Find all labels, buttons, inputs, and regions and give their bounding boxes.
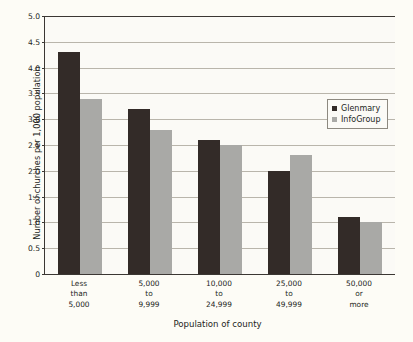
- chart-legend: GlenmaryInfoGroup: [327, 99, 388, 129]
- x-axis-tick-label-line: 49,999: [249, 300, 329, 310]
- bar-infogroup: [220, 145, 242, 274]
- x-axis-tick-label: 50,000ormore: [319, 279, 399, 310]
- bar-group: [338, 16, 382, 274]
- bar-group: [58, 16, 102, 274]
- bar-infogroup: [150, 130, 172, 274]
- x-axis-tick-label-line: 50,000: [319, 279, 399, 289]
- bar-infogroup: [360, 222, 382, 274]
- x-axis-tick-label-line: 9,999: [109, 300, 189, 310]
- y-axis-tick-mark: [42, 145, 46, 146]
- y-axis-tick-label: 1.0: [10, 218, 40, 227]
- bar-glenmary: [58, 52, 80, 274]
- legend-label: InfoGroup: [341, 115, 381, 124]
- x-axis-tick-label-line: Less: [39, 279, 119, 289]
- y-axis-tick-label: 1.5: [10, 192, 40, 201]
- x-axis-tick-label-line: 5,000: [109, 279, 189, 289]
- y-axis-tick-label: 0.5: [10, 244, 40, 253]
- y-axis-tick-mark: [42, 68, 46, 69]
- x-axis-tick-label-line: or: [319, 289, 399, 299]
- y-axis-tick-mark: [42, 42, 46, 43]
- bar-infogroup: [80, 99, 102, 274]
- bar-infogroup: [290, 155, 312, 274]
- y-axis-tick-mark: [42, 93, 46, 94]
- y-axis-tick-label: 3.0: [10, 115, 40, 124]
- x-axis-tick-label: 10,000to24,999: [179, 279, 259, 310]
- y-axis-tick-mark: [42, 197, 46, 198]
- x-axis-tick-label-line: more: [319, 300, 399, 310]
- y-axis-tick-label: 4.5: [10, 37, 40, 46]
- x-axis-tick-label-line: to: [179, 289, 259, 299]
- bar-glenmary: [268, 171, 290, 274]
- legend-item-infogroup: InfoGroup: [332, 114, 381, 125]
- x-axis-tick-label: 25,000to49,999: [249, 279, 329, 310]
- legend-swatch-icon: [332, 106, 337, 111]
- y-axis-tick-mark: [42, 16, 46, 17]
- y-axis-tick-mark: [42, 119, 46, 120]
- bar-chart-figure: Number of churches per 1,000 population …: [0, 0, 413, 342]
- y-axis-tick-label: 4.0: [10, 63, 40, 72]
- y-axis-tick-mark: [42, 274, 46, 275]
- y-axis-tick-label: 0: [10, 270, 40, 279]
- x-axis-tick-label-line: 10,000: [179, 279, 259, 289]
- plot-inner: [45, 16, 395, 274]
- bar-glenmary: [338, 217, 360, 274]
- legend-item-glenmary: Glenmary: [332, 103, 381, 114]
- bar-group: [198, 16, 242, 274]
- bar-group: [268, 16, 312, 274]
- x-axis-tick-label-line: than: [39, 289, 119, 299]
- y-axis-tick-mark: [42, 222, 46, 223]
- y-axis-tick-label: 2.5: [10, 141, 40, 150]
- x-axis-tick-label: Lessthan5,000: [39, 279, 119, 310]
- x-axis-tick-label-line: 5,000: [39, 300, 119, 310]
- plot-area: [44, 16, 395, 275]
- y-axis-tick-mark: [42, 248, 46, 249]
- legend-label: Glenmary: [341, 104, 380, 113]
- x-axis-tick-label-line: to: [249, 289, 329, 299]
- y-axis-tick-mark: [42, 171, 46, 172]
- x-axis-tick-label-line: 24,999: [179, 300, 259, 310]
- legend-swatch-icon: [332, 117, 337, 122]
- y-axis-tick-label: 2.0: [10, 166, 40, 175]
- bar-group: [128, 16, 172, 274]
- bar-glenmary: [198, 140, 220, 274]
- x-axis-tick-label: 5,000to9,999: [109, 279, 189, 310]
- y-axis-tick-label: 3.5: [10, 89, 40, 98]
- x-axis-tick-label-line: 25,000: [249, 279, 329, 289]
- bar-glenmary: [128, 109, 150, 274]
- y-axis-tick-label: 5.0: [10, 12, 40, 21]
- x-axis-title: Population of county: [40, 319, 395, 329]
- x-axis-tick-label-line: to: [109, 289, 189, 299]
